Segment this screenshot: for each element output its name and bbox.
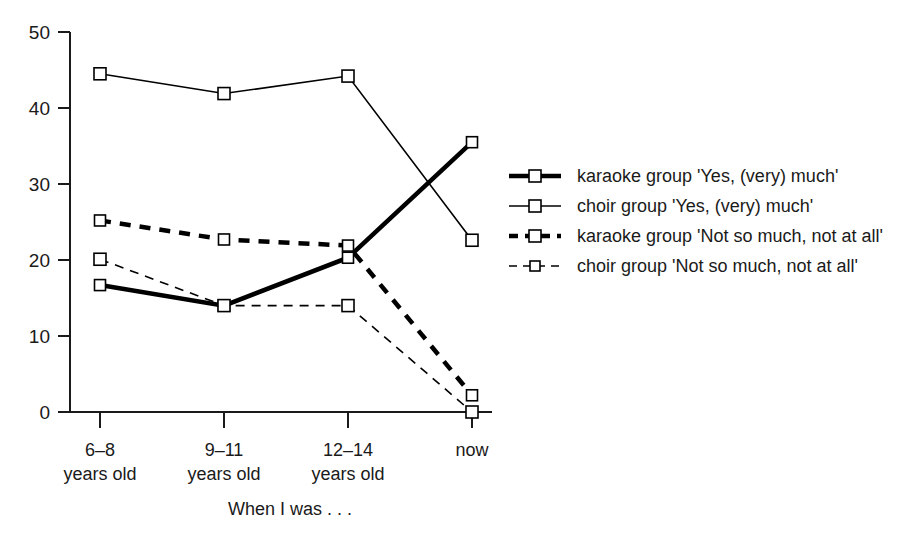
x-label-2-line2: years old [311, 464, 384, 484]
data-point-0-0[interactable] [95, 280, 106, 291]
data-point-3-3[interactable] [466, 406, 478, 418]
series-0 [95, 137, 478, 311]
data-point-1-1[interactable] [218, 88, 230, 100]
series-layer [94, 68, 478, 418]
data-point-2-1[interactable] [219, 234, 230, 245]
x-axis-category-labels: 6–8 years old 9–11 years old 12–14 years… [63, 440, 489, 484]
legend-item-3[interactable]: choir group 'Not so much, not at all' [509, 256, 858, 276]
data-point-3-2[interactable] [342, 300, 354, 312]
y-axis-tick-labels: 50 40 30 20 10 0 [29, 22, 50, 423]
data-point-1-2[interactable] [342, 70, 354, 82]
series-2 [95, 215, 478, 401]
chart-figure: 50 40 30 20 10 0 6–8 years old 9–11 year… [0, 0, 901, 540]
series-1 [94, 68, 478, 246]
data-point-2-2[interactable] [343, 240, 354, 251]
legend-swatch-marker-1 [529, 200, 541, 212]
data-point-3-0[interactable] [94, 253, 106, 265]
axes [70, 32, 492, 412]
data-point-2-0[interactable] [95, 215, 106, 226]
legend-swatch-marker-2 [529, 230, 541, 242]
series-line-2 [100, 220, 472, 395]
data-point-2-3[interactable] [467, 390, 478, 401]
y-tick-label-20: 20 [29, 250, 50, 271]
x-label-0-line2: years old [63, 464, 136, 484]
x-label-1-line2: years old [187, 464, 260, 484]
legend-swatch-marker-0 [529, 170, 541, 182]
y-tick-label-30: 30 [29, 174, 50, 195]
x-label-3-line1: now [455, 440, 489, 460]
legend-label-1: choir group 'Yes, (very) much' [577, 196, 813, 216]
data-point-1-0[interactable] [94, 68, 106, 80]
legend-label-2: karaoke group 'Not so much, not at all' [577, 226, 883, 246]
y-tick-label-50: 50 [29, 22, 50, 43]
y-tick-label-10: 10 [29, 326, 50, 347]
legend-item-2[interactable]: karaoke group 'Not so much, not at all' [509, 226, 883, 246]
x-label-2-line1: 12–14 [323, 440, 373, 460]
y-tick-label-40: 40 [29, 98, 50, 119]
legend-item-0[interactable]: karaoke group 'Yes, (very) much' [509, 166, 838, 186]
data-point-3-1[interactable] [218, 300, 230, 312]
line-chart: 50 40 30 20 10 0 6–8 years old 9–11 year… [0, 0, 901, 540]
data-point-0-3[interactable] [467, 137, 478, 148]
x-label-0-line1: 6–8 [85, 440, 115, 460]
series-line-1 [100, 74, 472, 240]
y-axis-ticks [58, 32, 70, 412]
data-point-0-2[interactable] [343, 252, 354, 263]
x-label-1-line1: 9–11 [205, 440, 244, 460]
x-axis-title: When I was . . . [228, 499, 352, 519]
chart-legend: karaoke group 'Yes, (very) much' choir g… [509, 166, 883, 276]
y-tick-label-0: 0 [39, 402, 50, 423]
legend-swatch-marker-3 [530, 261, 540, 271]
data-point-1-3[interactable] [466, 234, 478, 246]
legend-label-0: karaoke group 'Yes, (very) much' [577, 166, 838, 186]
legend-label-3: choir group 'Not so much, not at all' [577, 256, 858, 276]
x-axis-ticks [100, 412, 472, 428]
legend-item-1[interactable]: choir group 'Yes, (very) much' [509, 196, 813, 216]
